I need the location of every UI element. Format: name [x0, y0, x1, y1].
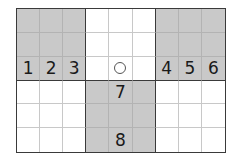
circle-marker-icon: [114, 62, 126, 74]
grid-cell: [202, 81, 225, 105]
grid-cell: [179, 9, 202, 33]
grid-cell: [17, 128, 40, 152]
grid-cell: [63, 128, 86, 152]
cell-number: 4: [161, 58, 172, 78]
grid-cell: [63, 33, 86, 57]
grid-cell: 2: [40, 57, 63, 81]
grid-cell: [202, 104, 225, 128]
grid-cell: 6: [202, 57, 225, 81]
grid-cell: [133, 33, 156, 57]
grid-cell: [133, 81, 156, 105]
grid-cell: 3: [63, 57, 86, 81]
grid-cell: [109, 9, 132, 33]
grid-cell: 7: [109, 81, 132, 105]
cell-number: 3: [69, 58, 80, 78]
grid-cell: [40, 128, 63, 152]
grid-cell: [86, 128, 109, 152]
grid-cell: [109, 104, 132, 128]
grid-cell: [63, 104, 86, 128]
grid-cell: [202, 9, 225, 33]
grid-cell: [86, 81, 109, 105]
grid-cell: [86, 57, 109, 81]
grid-cell: [17, 33, 40, 57]
grid-cell: [156, 81, 179, 105]
grid-cell: [40, 9, 63, 33]
grid-cell: [40, 33, 63, 57]
grid-cell: [156, 128, 179, 152]
cell-number: 8: [115, 130, 126, 150]
cell-number: 2: [46, 58, 57, 78]
grid-cell: [156, 9, 179, 33]
cell-number: 7: [115, 82, 126, 102]
grid-cell: [40, 104, 63, 128]
grid-cell: [17, 81, 40, 105]
cell-number: 5: [184, 58, 195, 78]
grid-cell: [109, 33, 132, 57]
grid-cell: [179, 104, 202, 128]
grid-cell: [156, 33, 179, 57]
grid-cell: [86, 33, 109, 57]
cell-number: 6: [208, 58, 219, 78]
grid-cell: [109, 57, 132, 81]
grid-cell: [63, 81, 86, 105]
grid-cell: [202, 33, 225, 57]
grid-cell: 5: [179, 57, 202, 81]
grid-cell: [179, 33, 202, 57]
grid-cell: [133, 128, 156, 152]
grid-cell: [202, 128, 225, 152]
grid-cell: [179, 128, 202, 152]
grid-cell: [156, 104, 179, 128]
grid-cell: [133, 57, 156, 81]
grid-cell: 4: [156, 57, 179, 81]
grid-cell: 8: [109, 128, 132, 152]
grid-cell: [17, 104, 40, 128]
grid-cell: [133, 9, 156, 33]
grid-cell: 1: [17, 57, 40, 81]
grid-cell: [86, 9, 109, 33]
sudoku-grid: 12345678: [16, 8, 226, 153]
grid-cell: [63, 9, 86, 33]
grid-cell: [179, 81, 202, 105]
grid-cell: [86, 104, 109, 128]
grid-cell: [17, 9, 40, 33]
cell-number: 1: [23, 58, 34, 78]
grid-cell: [40, 81, 63, 105]
grid-cell: [133, 104, 156, 128]
